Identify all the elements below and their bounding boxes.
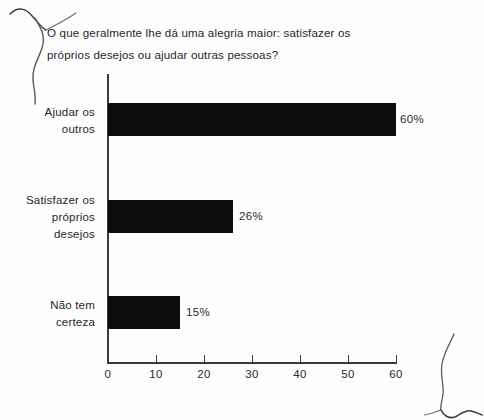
x-axis-tick-label: 40 — [280, 368, 320, 380]
bar — [108, 103, 396, 136]
bar-category-label-line: Satisfazer os — [0, 192, 95, 209]
x-axis-tick — [204, 355, 205, 363]
bar-category-label-line: Ajudar os — [0, 104, 95, 121]
bar-value-label: 15% — [186, 296, 210, 329]
x-axis-tick — [108, 355, 109, 363]
bar-category-label-line: certeza — [0, 314, 95, 331]
bar-category-label: Satisfazer os próprios desejos — [0, 192, 95, 243]
bar — [108, 296, 180, 329]
x-axis-tick — [156, 355, 157, 363]
x-axis-tick — [252, 355, 253, 363]
bar-value-label: 60% — [400, 103, 424, 136]
bar-category-label-line: desejos — [0, 226, 95, 243]
x-axis-tick — [396, 355, 397, 363]
x-axis-tick-label: 0 — [88, 368, 128, 380]
bar — [108, 200, 233, 233]
x-axis-tick — [300, 355, 301, 363]
bar-category-label-line: próprios — [0, 209, 95, 226]
x-axis-tick-label: 60 — [376, 368, 416, 380]
x-axis-tick-label: 20 — [184, 368, 224, 380]
x-axis-tick — [348, 355, 349, 363]
x-axis-tick-label: 10 — [136, 368, 176, 380]
bar-category-label-line: outros — [0, 121, 95, 138]
page-background: O que geralmente lhe dá uma alegria maio… — [0, 0, 484, 420]
x-axis-tick-label: 50 — [328, 368, 368, 380]
bar-category-label: Não tem certeza — [0, 297, 95, 331]
bar-category-label-line: Não tem — [0, 297, 95, 314]
x-axis-tick-label: 30 — [232, 368, 272, 380]
chart-plot-area: 0 10 20 30 40 50 60 Ajudar os outros 60%… — [0, 0, 484, 420]
bar-value-label: 26% — [239, 200, 263, 233]
bar-category-label: Ajudar os outros — [0, 104, 95, 138]
